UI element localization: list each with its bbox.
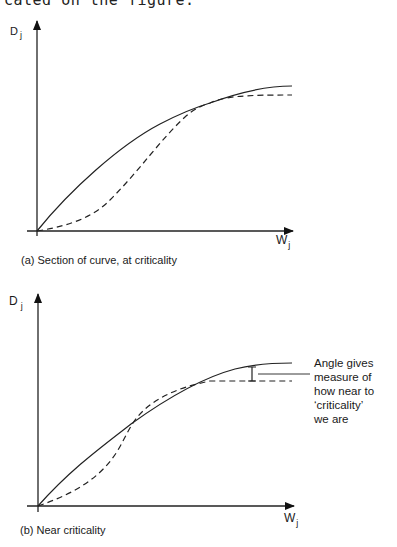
chart-a-caption: (a) Section of curve, at criticality	[21, 254, 177, 266]
chart-a-solid-curve	[37, 86, 292, 231]
annotation-line: we are	[314, 412, 394, 426]
chart-b: Dj Wj (b) Near criticality	[9, 294, 310, 536]
angle-marker-icon	[248, 367, 256, 381]
svg-text:Dj: Dj	[10, 25, 22, 40]
annotation-line: how near to	[314, 384, 394, 398]
chart-a: Dj Wj (a) Section of curve, at criticali…	[10, 21, 293, 266]
chart-b-solid-curve	[38, 363, 292, 506]
svg-text:Dj: Dj	[9, 294, 23, 311]
svg-text:Wj: Wj	[276, 233, 290, 250]
chart-a-dashed-curve	[37, 95, 292, 231]
angle-annotation: Angle gives measure of how near to ‘crit…	[314, 356, 394, 426]
chart-a-x-label: W	[276, 233, 288, 247]
svg-text:Wj: Wj	[284, 511, 298, 528]
annotation-line: measure of	[314, 370, 394, 384]
chart-b-caption: (b) Near criticality	[20, 524, 106, 536]
figure: Dj Wj (a) Section of curve, at criticali…	[0, 0, 397, 547]
chart-b-dashed-curve	[38, 381, 292, 506]
chart-b-x-label: W	[284, 511, 296, 525]
chart-b-y-label: D	[9, 294, 18, 308]
annotation-line: Angle gives	[314, 356, 394, 370]
annotation-line: ‘criticality’	[314, 398, 394, 412]
chart-a-y-label: D	[10, 25, 18, 37]
